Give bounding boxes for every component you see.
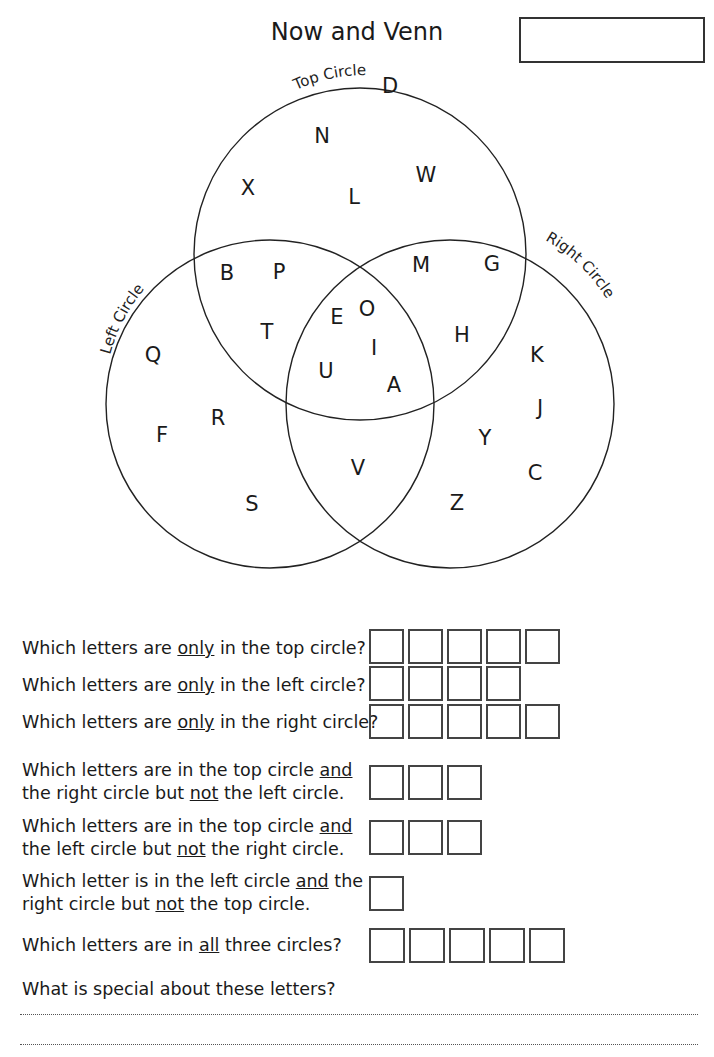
venn-letters: DNXLWBPMGEOTIHQKUAJRFYVCSZ: [145, 74, 545, 516]
answer-box[interactable]: [447, 629, 482, 664]
venn-letter: Q: [145, 343, 162, 367]
answer-boxes-1: [369, 629, 560, 664]
venn-letter: V: [351, 456, 366, 480]
answer-box[interactable]: [525, 704, 560, 739]
answer-box[interactable]: [369, 928, 405, 963]
answer-box[interactable]: [408, 666, 443, 701]
question-7: Which letters are in all three circles?: [22, 934, 342, 957]
answer-line-2[interactable]: [20, 1044, 698, 1045]
venn-letter: L: [348, 185, 360, 209]
question-8: What is special about these letters?: [22, 978, 336, 1001]
venn-letter: K: [530, 343, 545, 367]
venn-letter: D: [382, 74, 398, 98]
answer-boxes-6: [369, 876, 404, 911]
venn-letter: T: [260, 320, 274, 344]
answer-box[interactable]: [447, 820, 482, 855]
venn-letter: S: [245, 492, 258, 516]
answer-box[interactable]: [447, 704, 482, 739]
question-5: Which letters are in the top circle andt…: [22, 815, 352, 861]
answer-box[interactable]: [447, 666, 482, 701]
answer-box[interactable]: [449, 928, 485, 963]
venn-letter: H: [454, 323, 470, 347]
answer-boxes-3: [369, 704, 560, 739]
top-circle-label: Top Circle: [290, 61, 367, 94]
question-4: Which letters are in the top circle andt…: [22, 759, 352, 805]
right-circle: [286, 240, 614, 568]
answer-box[interactable]: [529, 928, 565, 963]
venn-letter: X: [241, 176, 255, 200]
answer-boxes-2: [369, 666, 521, 701]
answer-box[interactable]: [408, 704, 443, 739]
venn-letter: C: [528, 461, 543, 485]
right-circle-label: Right Circle: [543, 228, 619, 301]
venn-diagram: Top Circle Left Circle Right Circle DNXL…: [0, 0, 714, 600]
answer-box[interactable]: [408, 765, 443, 800]
answer-box[interactable]: [525, 629, 560, 664]
venn-letter: F: [156, 423, 168, 447]
answer-box[interactable]: [369, 820, 404, 855]
venn-letter: A: [387, 373, 402, 397]
venn-letter: N: [314, 124, 330, 148]
venn-letter: U: [318, 359, 333, 383]
answer-boxes-5: [369, 820, 482, 855]
answer-box[interactable]: [369, 765, 404, 800]
answer-boxes-7: [369, 928, 565, 963]
venn-letter: B: [220, 261, 234, 285]
answer-box[interactable]: [486, 704, 521, 739]
venn-letter: E: [330, 305, 343, 329]
venn-letter: M: [412, 253, 430, 277]
question-1: Which letters are only in the top circle…: [22, 637, 366, 660]
answer-box[interactable]: [486, 666, 521, 701]
venn-letter: Z: [450, 491, 464, 515]
venn-letter: I: [371, 336, 377, 360]
left-circle: [106, 240, 434, 568]
answer-box[interactable]: [408, 820, 443, 855]
answer-box[interactable]: [409, 928, 445, 963]
left-circle-label: Left Circle: [97, 280, 148, 356]
venn-letter: Y: [478, 426, 492, 450]
answer-boxes-4: [369, 765, 482, 800]
answer-box[interactable]: [369, 876, 404, 911]
answer-box[interactable]: [408, 629, 443, 664]
answer-box[interactable]: [369, 629, 404, 664]
question-6: Which letter is in the left circle and t…: [22, 870, 363, 916]
venn-letter: R: [211, 406, 226, 430]
top-circle: [194, 88, 526, 420]
answer-line-1[interactable]: [20, 1014, 698, 1015]
venn-letter: J: [535, 396, 543, 420]
venn-letter: O: [359, 297, 376, 321]
answer-box[interactable]: [369, 704, 404, 739]
answer-box[interactable]: [486, 629, 521, 664]
venn-letter: P: [273, 260, 286, 284]
question-3: Which letters are only in the right circ…: [22, 711, 378, 734]
answer-box[interactable]: [369, 666, 404, 701]
answer-box[interactable]: [447, 765, 482, 800]
venn-letter: G: [484, 252, 500, 276]
answer-box[interactable]: [489, 928, 525, 963]
venn-letter: W: [416, 163, 437, 187]
question-2: Which letters are only in the left circl…: [22, 674, 366, 697]
